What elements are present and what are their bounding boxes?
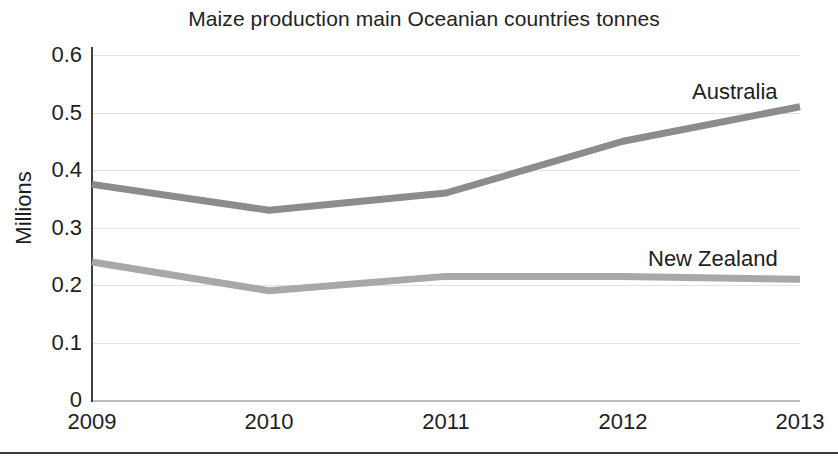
x-tick-label: 2010	[209, 408, 329, 436]
series-line-australia	[92, 107, 800, 211]
series-label-australia: Australia	[692, 79, 778, 105]
x-tick-label: 2009	[32, 408, 152, 436]
chart-figure: Maize production main Oceanian countries…	[0, 0, 838, 459]
series-lines	[0, 0, 838, 459]
x-axis-tick-labels: 20092010201120122013	[92, 408, 800, 448]
x-tick-label: 2013	[740, 408, 838, 436]
series-label-new-zealand: New Zealand	[648, 246, 778, 272]
x-tick-label: 2012	[563, 408, 683, 436]
x-tick-label: 2011	[386, 408, 506, 436]
figure-bottom-rule	[0, 452, 838, 454]
